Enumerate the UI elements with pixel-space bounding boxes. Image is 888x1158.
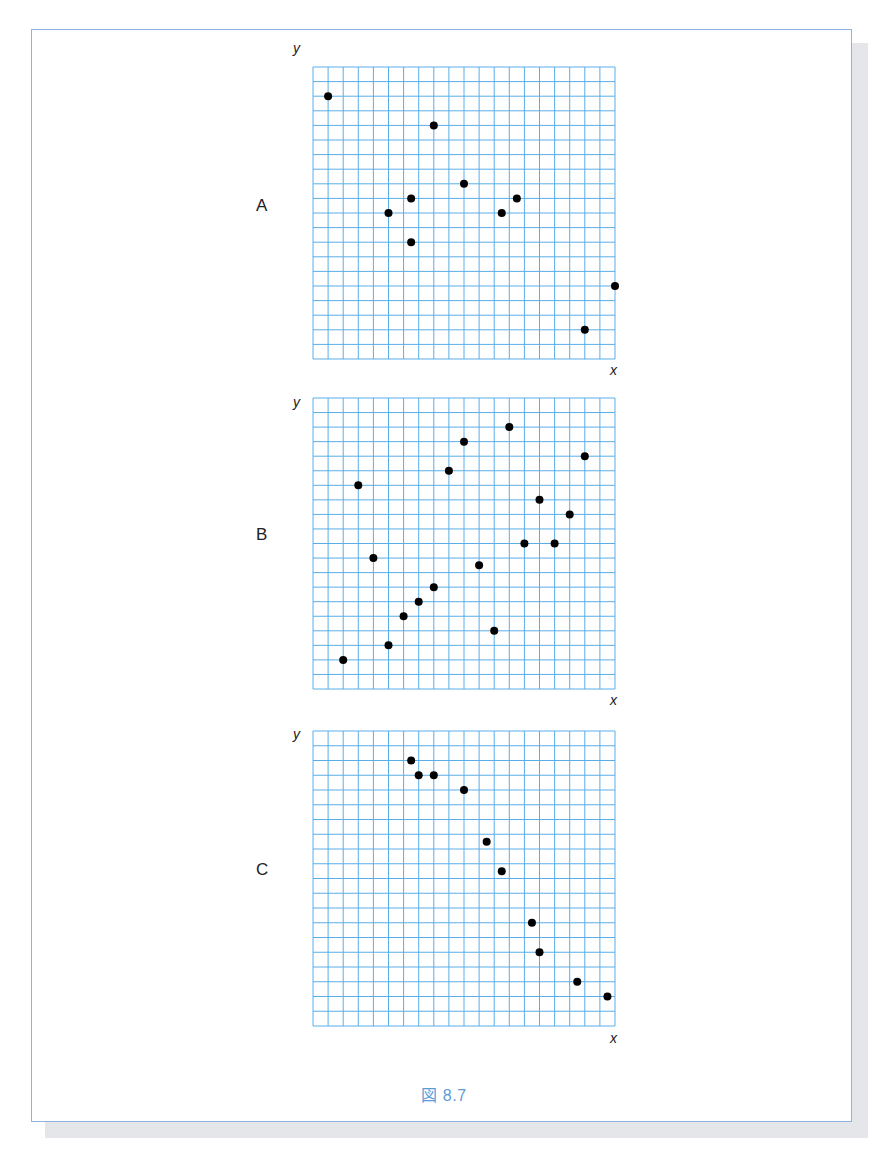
data-point [536,496,544,504]
data-point [460,438,468,446]
data-point [385,209,393,217]
data-point [475,561,483,569]
y-axis-label: y [293,40,300,56]
data-point [460,180,468,188]
data-point [520,540,528,548]
data-point [445,467,453,475]
x-axis-label: x [610,1030,617,1046]
data-point [460,786,468,794]
data-point [339,656,347,664]
data-point [498,867,506,875]
data-point [528,919,536,927]
data-point [407,238,415,246]
x-axis-label: x [610,692,617,708]
panel-label: C [256,860,268,880]
data-point [407,757,415,765]
data-point [415,771,423,779]
data-point [566,510,574,518]
data-point [490,627,498,635]
scatter-plot-b [313,398,615,689]
data-point [513,194,521,202]
data-point [603,993,611,1001]
x-axis-label: x [610,362,617,378]
y-axis-label: y [293,394,300,410]
data-point [369,554,377,562]
panel-label: A [256,196,267,216]
data-point [430,771,438,779]
data-point [483,838,491,846]
panel-label: B [256,525,267,545]
scatter-plot-a [313,67,615,359]
y-axis-label: y [293,726,300,742]
data-point [536,948,544,956]
data-point [505,423,513,431]
data-point [407,194,415,202]
data-point [551,540,559,548]
data-point [581,452,589,460]
data-point [324,92,332,100]
data-point [400,612,408,620]
data-point [430,121,438,129]
data-point [415,598,423,606]
data-point [611,282,619,290]
data-point [581,326,589,334]
scatter-plot-c [313,731,615,1026]
data-point [430,583,438,591]
data-point [385,641,393,649]
data-point [354,481,362,489]
data-point [573,978,581,986]
figure-caption: 図 8.7 [0,1082,888,1106]
data-point [498,209,506,217]
